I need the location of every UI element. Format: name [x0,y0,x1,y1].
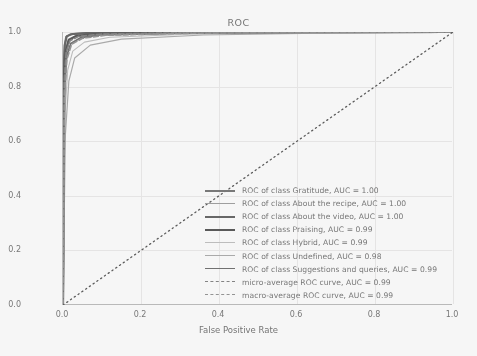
legend-item-label: ROC of class Undefined, AUC = 0.98 [242,252,382,261]
legend-item[interactable]: micro-average ROC curve, AUC = 0.99 [205,276,455,289]
y-axis-tick-label: 0.4 [0,191,21,200]
legend-line-swatch [205,264,235,274]
legend-item-label: micro-average ROC curve, AUC = 0.99 [242,278,391,287]
legend-item-label: ROC of class Hybrid, AUC = 0.99 [242,238,368,247]
legend-line-swatch [205,186,235,196]
x-axis-tick-label: 0.0 [39,310,85,319]
legend-line-swatch [205,212,235,222]
x-axis-label: False Positive Rate [0,325,477,335]
legend-item[interactable]: ROC of class Suggestions and queries, AU… [205,263,455,276]
legend-item[interactable]: ROC of class About the recipe, AUC = 1.0… [205,197,455,210]
legend-item[interactable]: ROC of class About the video, AUC = 1.00 [205,210,455,223]
legend-item[interactable]: ROC of class Undefined, AUC = 0.98 [205,249,455,262]
x-axis-tick-label: 1.0 [429,310,475,319]
x-axis-tick-label: 0.6 [273,310,319,319]
legend-item[interactable]: ROC of class Praising, AUC = 0.99 [205,223,455,236]
legend-item-label: ROC of class Gratitude, AUC = 1.00 [242,186,379,195]
y-axis-label: True Positive Rate [0,52,1,128]
legend-line-swatch [205,238,235,248]
y-axis-tick-label: 0.8 [0,82,21,91]
legend-line-swatch [205,199,235,209]
legend-line-swatch [205,225,235,235]
legend-line-swatch [205,251,235,261]
y-axis-tick-label: 1.0 [0,27,21,36]
legend-item[interactable]: ROC of class Hybrid, AUC = 0.99 [205,236,455,249]
legend-item[interactable]: macro-average ROC curve, AUC = 0.99 [205,289,455,302]
x-axis-tick-label: 0.8 [351,310,397,319]
roc-chart-figure: ROC 0.00.20.40.60.81.0 0.00.20.40.60.81.… [0,0,477,356]
legend-item-label: macro-average ROC curve, AUC = 0.99 [242,291,393,300]
legend-line-swatch [205,290,235,300]
x-axis-tick-label: 0.4 [195,310,241,319]
x-axis-tick-label: 0.2 [117,310,163,319]
legend-item-label: ROC of class Suggestions and queries, AU… [242,265,437,274]
y-axis-tick-label: 0.0 [0,300,21,309]
legend-line-swatch [205,277,235,287]
chart-legend: ROC of class Gratitude, AUC = 1.00ROC of… [205,184,455,302]
legend-item-label: ROC of class About the video, AUC = 1.00 [242,212,403,221]
legend-item[interactable]: ROC of class Gratitude, AUC = 1.00 [205,184,455,197]
legend-item-label: ROC of class About the recipe, AUC = 1.0… [242,199,406,208]
y-axis-tick-label: 0.2 [0,245,21,254]
chart-title: ROC [0,17,477,28]
legend-item-label: ROC of class Praising, AUC = 0.99 [242,225,373,234]
y-axis-tick-label: 0.6 [0,136,21,145]
